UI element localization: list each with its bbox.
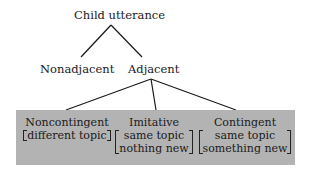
node-adjacent: Adjacent xyxy=(128,64,179,76)
node-nonadjacent: Nonadjacent xyxy=(40,64,114,76)
edge-adjacent-contingent xyxy=(151,79,236,110)
leaf-title: Contingent xyxy=(196,116,294,129)
feature-text: same topic xyxy=(119,129,188,142)
feature-bracket: same topic nothing new xyxy=(115,129,192,155)
edge-adjacent-noncontingent xyxy=(66,79,151,110)
leaf-title: Noncontingent xyxy=(18,116,116,129)
feature-bracket: same topic something new xyxy=(199,129,292,155)
feature-text: same topic xyxy=(203,129,288,142)
feature-bracket: different topic xyxy=(23,129,110,142)
leaf-contingent: Contingent same topic something new xyxy=(196,116,294,155)
edge-root-nonadjacent xyxy=(81,25,111,57)
edge-root-adjacent xyxy=(111,25,142,57)
leaf-noncontingent: Noncontingent different topic xyxy=(18,116,116,142)
root-node-label: Child utterance xyxy=(74,10,165,22)
feature-text: nothing new xyxy=(119,142,188,155)
feature-text: different topic xyxy=(27,129,106,142)
feature-text: something new xyxy=(203,142,288,155)
leaf-imitative: Imitative same topic nothing new xyxy=(112,116,196,155)
edge-adjacent-imitative xyxy=(151,79,156,110)
leaf-title: Imitative xyxy=(112,116,196,129)
